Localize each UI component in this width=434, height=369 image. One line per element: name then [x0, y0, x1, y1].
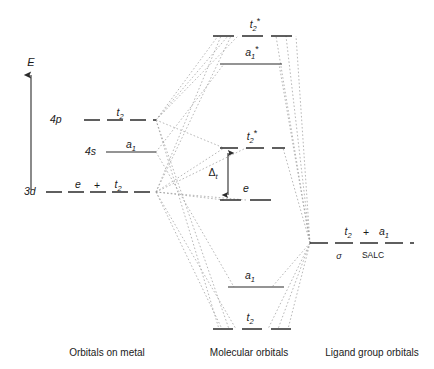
delta-t-label: Δt [208, 167, 217, 178]
caption-ligand-group-orbitals: Ligand group orbitals [325, 348, 418, 358]
metal-3d-term-t2-label: t2 [114, 179, 121, 190]
metal-4s-orbital-label: 4s [85, 146, 96, 157]
correlation-lines-ligand [268, 36, 310, 329]
metal-3d-term-e-label: e [75, 179, 81, 190]
correlation-lines-metal [156, 36, 246, 329]
caption-orbitals-on-metal: Orbitals on metal [69, 348, 145, 358]
mo-energy-diagram: E 4p t2 4s a1 3d e + t2 t2* a1* t2* e a1… [0, 0, 434, 369]
metal-4p-orbital-label: 4p [50, 114, 62, 125]
mo-t2-nonbonding-label: t2* [247, 131, 258, 142]
lgo-sigma-label: σ [336, 252, 341, 261]
mo-t2-antibonding-label: t2* [250, 19, 261, 30]
lgo-term-t2-label: t2 [344, 226, 351, 237]
caption-molecular-orbitals: Molecular orbitals [210, 348, 288, 358]
energy-axis-label: E [27, 57, 34, 68]
mo-a1-bonding-label: a1 [245, 270, 255, 281]
mo-t2-bonding-label: t2 [246, 312, 253, 323]
lgo-salc-label: SALC [362, 251, 384, 260]
diagram-canvas [0, 0, 434, 369]
metal-4p-term-label: t2 [116, 107, 123, 118]
lgo-term-join: + [363, 227, 369, 238]
metal-3d-term-join: + [94, 180, 100, 191]
metal-3d-orbital-label: 3d [24, 186, 36, 197]
mo-e-nonbonding-label: e [243, 183, 249, 194]
metal-4s-term-label: a1 [126, 139, 136, 150]
mo-a1-antibonding-label: a1* [245, 47, 259, 58]
lgo-term-a1-label: a1 [379, 226, 389, 237]
